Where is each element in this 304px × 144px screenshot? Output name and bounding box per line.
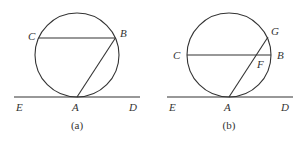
point-label-f: F (256, 58, 264, 70)
point-label-c: C (173, 49, 181, 61)
point-label-g: G (271, 25, 279, 37)
point-label-d: D (280, 101, 289, 113)
point-label-e: E (168, 101, 176, 113)
point-label-a: A (71, 101, 79, 113)
figure-a: CBEAD(a) (14, 13, 140, 132)
point-label-d: D (128, 101, 137, 113)
point-label-b: B (277, 49, 284, 61)
point-label-b: B (120, 27, 127, 39)
figure-b: CBGFEAD(b) (167, 13, 293, 132)
figure-caption: (a) (71, 119, 84, 132)
point-label-c: C (28, 30, 36, 42)
circle (35, 13, 119, 97)
point-label-a: A (223, 101, 231, 113)
point-label-e: E (15, 101, 23, 113)
chord-ab (77, 38, 115, 97)
figure-caption: (b) (223, 119, 236, 132)
geometry-diagram: CBEAD(a) CBGFEAD(b) (0, 0, 304, 144)
